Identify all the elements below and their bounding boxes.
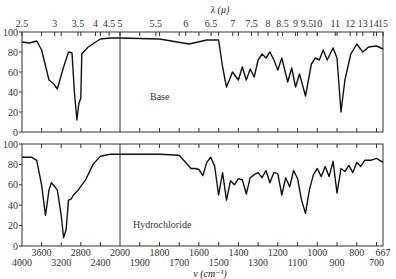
lambda-tick-label: 8.5 xyxy=(276,18,289,29)
lambda-tick-label: 6.5 xyxy=(205,18,218,29)
nu-tick-label: 700 xyxy=(369,257,384,268)
y-tick-label: 0 xyxy=(13,241,18,252)
nu-tick-label: 1200 xyxy=(268,247,288,258)
axes xyxy=(19,32,383,246)
lambda-tick-label: 5 xyxy=(118,18,123,29)
nu-tick-label: 1100 xyxy=(288,257,308,268)
y-tick-label: 60 xyxy=(8,67,18,78)
y-tick-label: 80 xyxy=(8,47,18,58)
panel-label-base: Base xyxy=(150,91,170,102)
spectrum-line-base xyxy=(22,38,383,120)
y-tick-label: 60 xyxy=(8,179,18,190)
spectrum-line-hydrochloride xyxy=(22,154,383,238)
nu-tick-label: 1600 xyxy=(189,247,209,258)
nu-tick-label: 800 xyxy=(349,247,364,258)
top-axis-title: λ (μ) xyxy=(210,4,230,16)
nu-tick-label: 2400 xyxy=(90,257,110,268)
y-tick-label: 40 xyxy=(8,87,18,98)
lambda-tick-label: 3.5 xyxy=(72,18,85,29)
lambda-tick-label: 4.5 xyxy=(103,18,116,29)
nu-tick-label: 1000 xyxy=(307,247,327,258)
lambda-tick-label: 10 xyxy=(312,18,322,29)
nu-tick-label: 1800 xyxy=(149,247,169,258)
lambda-tick-label: 13 xyxy=(358,18,368,29)
nu-tick-label: 3200 xyxy=(51,257,71,268)
spectrum-curves xyxy=(22,38,383,238)
y-tick-label: 80 xyxy=(8,159,18,170)
y-tick-label: 40 xyxy=(8,200,18,211)
lambda-tick-label: 15 xyxy=(378,18,388,29)
y-tick-label: 20 xyxy=(8,107,18,118)
bottom-axis-title: ν (cm⁻¹) xyxy=(193,268,227,279)
panel-frame xyxy=(22,144,383,246)
y-tick-label: 0 xyxy=(13,127,18,138)
lambda-tick-label: 12 xyxy=(345,18,355,29)
nu-tick-label: 3600 xyxy=(32,247,52,258)
nu-tick-label: 900 xyxy=(330,257,345,268)
lambda-tick-label: 8 xyxy=(265,18,270,29)
lambda-tick-label: 9 xyxy=(293,18,298,29)
lambda-tick-label: 2.5 xyxy=(16,18,29,29)
lambda-tick-label: 5.5 xyxy=(150,18,163,29)
lambda-tick-label: 6 xyxy=(183,18,188,29)
nu-tick-label: 1300 xyxy=(248,257,268,268)
nu-tick-label: 1700 xyxy=(169,257,189,268)
lambda-tick-label: 4 xyxy=(93,18,98,29)
nu-tick-label: 1900 xyxy=(130,257,150,268)
panel-label-hydrochloride: Hydrochloride xyxy=(133,219,192,230)
y-tick-label: 100 xyxy=(3,139,18,150)
y-tick-label: 20 xyxy=(8,220,18,231)
lambda-tick-label: 7.5 xyxy=(245,18,258,29)
axis-labels: 100806040200100806040200BaseHydrochlorid… xyxy=(3,4,391,279)
lambda-tick-label: 9.5 xyxy=(301,18,314,29)
lambda-tick-label: 3 xyxy=(52,18,57,29)
nu-tick-label: 2000 xyxy=(110,247,130,258)
nu-tick-label: 4000 xyxy=(12,257,32,268)
lambda-tick-label: 7 xyxy=(230,18,235,29)
nu-tick-label: 1400 xyxy=(228,247,248,258)
ir-spectrum-chart: 100806040200100806040200BaseHydrochlorid… xyxy=(0,0,396,279)
nu-tick-label: 1500 xyxy=(209,257,229,268)
nu-tick-label: 2800 xyxy=(71,247,91,258)
lambda-tick-label: 11 xyxy=(330,18,340,29)
